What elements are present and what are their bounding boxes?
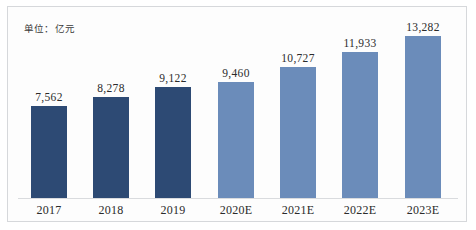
x-tick-2022E: 2022E — [329, 203, 391, 218]
bar-2017[interactable] — [31, 106, 67, 198]
x-tick-2020E: 2020E — [205, 203, 267, 218]
bar-value-label: 8,278 — [80, 82, 142, 94]
bar-2022E[interactable] — [342, 52, 378, 198]
plot-area: 7,562 8,278 9,122 9,460 10,727 11,933 — [8, 7, 468, 223]
bar-2021E[interactable] — [280, 67, 316, 198]
bar-2023E[interactable] — [405, 36, 441, 198]
bar-slot: 11,933 — [329, 27, 391, 198]
bars-area: 7,562 8,278 9,122 9,460 10,727 11,933 — [18, 27, 458, 198]
bar-value-label: 9,460 — [205, 67, 267, 79]
bar-slot: 7,562 — [18, 27, 80, 198]
bar-slot: 9,122 — [142, 27, 204, 198]
bar-value-label: 10,727 — [267, 52, 329, 64]
x-tick-2021E: 2021E — [267, 203, 329, 218]
x-axis-labels: 2017 2018 2019 2020E 2021E 2022E 2023E — [18, 203, 458, 223]
bar-value-label: 9,122 — [142, 72, 204, 84]
x-tick-2019: 2019 — [142, 203, 204, 218]
chart-frame: 单位：亿元 7,562 8,278 9,122 9,460 10,727 — [7, 6, 467, 222]
bar-slot: 9,460 — [205, 27, 267, 198]
x-tick-2017: 2017 — [18, 203, 80, 218]
bar-slot: 10,727 — [267, 27, 329, 198]
x-tick-2018: 2018 — [80, 203, 142, 218]
x-axis-baseline — [18, 198, 458, 199]
bar-value-label: 7,562 — [18, 91, 80, 103]
x-tick-2023E: 2023E — [392, 203, 454, 218]
bar-2020E[interactable] — [218, 82, 254, 198]
bar-value-label: 11,933 — [329, 37, 391, 49]
bar-slot: 8,278 — [80, 27, 142, 198]
bar-2018[interactable] — [93, 97, 129, 198]
bar-2019[interactable] — [155, 87, 191, 198]
bar-slot: 13,282 — [392, 27, 454, 198]
bar-value-label: 13,282 — [392, 21, 454, 33]
